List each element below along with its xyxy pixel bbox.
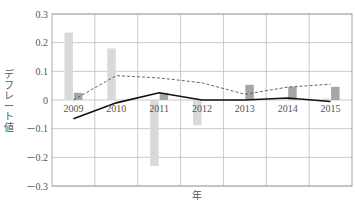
x-tick-label: 2010 [106,103,126,114]
y-label-char: ー [4,101,14,112]
bar-bar-light-2015 [322,99,331,100]
y-tick-label: －0.2 [26,152,49,163]
bar-bar-dark-2015 [331,87,340,100]
x-tick-label: 2011 [149,103,169,114]
x-tick-label: 2009 [63,103,83,114]
y-label-char: レ [4,90,14,101]
x-axis-ticks: 2009201020112012201320142015 [63,103,340,114]
bar-bar-light-2010 [107,48,116,100]
x-tick-label: 2015 [321,103,341,114]
y-axis-label: デフレート値 [4,68,14,133]
y-label-char: 値 [4,121,14,133]
bar-bar-light-2009 [64,33,73,100]
y-label-char: ト [4,111,14,122]
bar-bar-light-2014 [279,99,288,100]
x-tick-label: 2012 [192,103,212,114]
y-tick-label: 0.1 [36,66,49,77]
y-tick-label: －0.3 [26,181,49,192]
x-tick-label: 2014 [278,103,298,114]
bar-bar-dark-2013 [245,85,254,100]
y-axis-ticks: 0.30.20.10－0.1－0.2－0.3 [26,9,49,192]
deflate-value-chart: 0.30.20.10－0.1－0.2－0.3 20092010201120122… [0,0,355,202]
y-tick-label: 0.3 [36,9,49,20]
y-tick-label: －0.1 [26,123,49,134]
y-label-char: フ [4,80,14,91]
y-label-char: デ [4,68,14,80]
y-tick-label: 0 [43,95,48,106]
x-tick-label: 2013 [235,103,255,114]
y-tick-label: 0.2 [36,37,49,48]
x-axis-label: 年 [192,189,202,201]
